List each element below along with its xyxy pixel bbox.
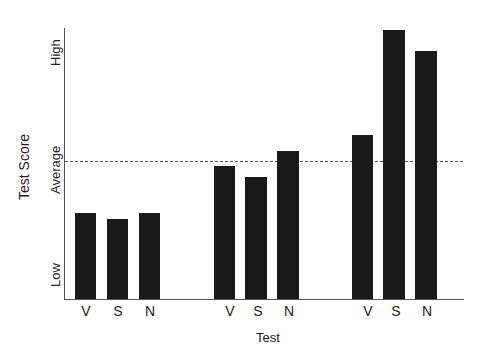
bar-g3-v bbox=[352, 135, 373, 299]
xtick-g3-n: N bbox=[416, 303, 438, 319]
bar-g1-s bbox=[107, 219, 128, 299]
xtick-g2-s: S bbox=[247, 303, 269, 319]
x-axis-title: Test bbox=[256, 330, 280, 345]
xtick-g3-s: S bbox=[385, 303, 407, 319]
y-tick-high: High bbox=[48, 39, 63, 66]
bar-g3-s bbox=[383, 30, 405, 299]
y-tick-average: Average bbox=[48, 146, 63, 194]
bar-g2-s bbox=[245, 177, 267, 299]
bar-g2-v bbox=[214, 166, 235, 299]
bar-g2-n bbox=[277, 151, 299, 299]
xtick-g1-n: N bbox=[139, 303, 161, 319]
bar-g1-n bbox=[139, 213, 160, 299]
bar-g3-n bbox=[415, 51, 437, 299]
xtick-g1-v: V bbox=[75, 303, 97, 319]
y-axis-title: Test Score bbox=[16, 134, 32, 200]
x-axis bbox=[64, 299, 464, 300]
y-tick-low: Low bbox=[48, 263, 63, 287]
bar-g1-v bbox=[75, 213, 96, 299]
y-axis bbox=[64, 28, 65, 300]
xtick-g3-v: V bbox=[357, 303, 379, 319]
xtick-g2-v: V bbox=[219, 303, 241, 319]
xtick-g1-s: S bbox=[107, 303, 129, 319]
xtick-g2-n: N bbox=[278, 303, 300, 319]
